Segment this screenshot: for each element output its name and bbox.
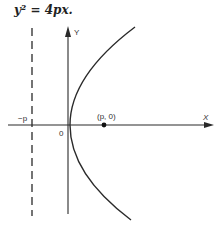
directrix-label: −p	[18, 114, 28, 123]
focus-point	[102, 123, 107, 128]
y-axis-arrow-icon	[65, 26, 71, 37]
x-axis-label: X	[202, 113, 209, 122]
y-axis-label: Y	[74, 28, 80, 37]
origin-label: 0	[59, 129, 64, 138]
parabola-diagram: Y X 0 −p (p, 0)	[0, 0, 220, 232]
focus-label: (p, 0)	[97, 112, 116, 121]
x-axis-arrow-icon	[204, 122, 214, 128]
